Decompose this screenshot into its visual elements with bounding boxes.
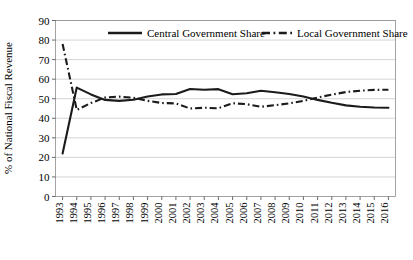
x-tick-label: 2008 xyxy=(266,203,277,224)
y-tick-label: 20 xyxy=(39,151,51,163)
y-axis-title: % of National Fiscal Revenue xyxy=(2,42,14,174)
x-tick-label: 2007 xyxy=(252,203,263,224)
x-tick-label: 2006 xyxy=(238,203,249,224)
y-tick-label: 70 xyxy=(39,54,51,66)
x-tick-label: 1999 xyxy=(139,203,150,224)
x-tick-label: 2011 xyxy=(309,203,320,224)
y-tick-label: 90 xyxy=(39,15,51,27)
legend-label-local: Local Government Share xyxy=(297,27,408,39)
chart-container: 0102030405060708090 19931994199519961997… xyxy=(0,0,413,260)
x-tick-label: 2002 xyxy=(181,203,192,224)
x-tick-label: 1995 xyxy=(82,203,93,224)
y-tick-label: 10 xyxy=(39,171,51,183)
x-tick-label: 2001 xyxy=(167,203,178,224)
y-tick-label: 50 xyxy=(39,93,51,105)
x-tick-label: 2015 xyxy=(365,203,376,224)
y-tick-label: 0 xyxy=(44,191,50,203)
fiscal-revenue-share-line-chart: 0102030405060708090 19931994199519961997… xyxy=(0,0,413,260)
x-tick-label: 2016 xyxy=(379,203,390,224)
x-tick-label: 1997 xyxy=(110,203,121,224)
y-tick-label: 30 xyxy=(39,132,51,144)
x-tick-label: 2009 xyxy=(280,203,291,224)
chart-legend: Central Government Share Local Governmen… xyxy=(108,27,408,39)
x-tick-label: 2004 xyxy=(209,202,220,224)
y-tick-label: 40 xyxy=(39,112,51,124)
x-tick-label: 1994 xyxy=(68,202,79,224)
x-tick-label: 2014 xyxy=(351,202,362,224)
x-tick-label: 2003 xyxy=(195,203,206,224)
x-tick-label: 2013 xyxy=(337,203,348,224)
y-tick-label: 60 xyxy=(39,73,51,85)
x-tick-label: 1996 xyxy=(96,203,107,224)
x-tick-label: 1993 xyxy=(54,203,65,224)
x-tick-label: 2010 xyxy=(294,203,305,224)
x-tick-label: 2005 xyxy=(224,203,235,224)
x-tick-label: 2012 xyxy=(323,203,334,224)
x-tick-label: 2000 xyxy=(153,203,164,224)
legend-label-central: Central Government Share xyxy=(147,27,265,39)
y-tick-label: 80 xyxy=(39,34,51,46)
x-tick-label: 1998 xyxy=(124,203,135,224)
